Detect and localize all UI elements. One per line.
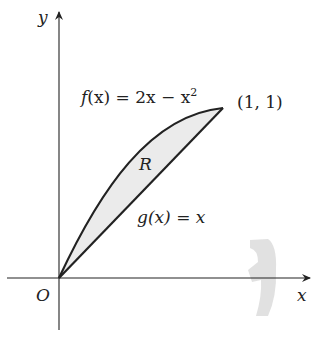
g-label: g(x) = x <box>137 207 206 227</box>
origin-label: O <box>36 285 50 305</box>
curve-g <box>59 108 223 278</box>
region-label: R <box>138 154 152 174</box>
point-label: (1, 1) <box>237 92 283 112</box>
y-axis-label: y <box>37 7 48 27</box>
diagram-canvas: y x O f(x) = 2x − x2 (1, 1) R g(x) = x <box>0 0 327 340</box>
f-label: f(x) = 2x − x2 <box>79 86 197 107</box>
x-axis-label: x <box>297 285 307 305</box>
